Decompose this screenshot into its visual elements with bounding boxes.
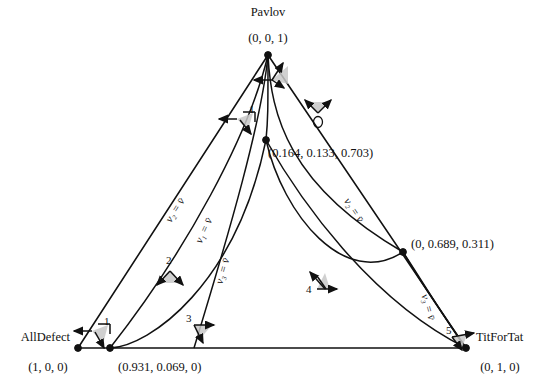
point-label-interior: (0.164, 0.133, 0.703) xyxy=(268,146,373,160)
curve-label-v3-left: v₃ = v̄ xyxy=(213,256,232,285)
node-dots xyxy=(75,52,470,352)
curve-label-v2-left: v₂ = v̄ xyxy=(162,195,186,224)
simplex-figure: 1 2 3 xyxy=(0,0,536,386)
marker-1-lower: 1 xyxy=(74,315,110,348)
curve-label-v1-left: v₁ = v̄ xyxy=(192,216,214,245)
marker-label: 3 xyxy=(186,312,192,324)
isocline-curves xyxy=(110,55,466,348)
marker-label: 1 xyxy=(104,315,110,327)
point-dot-right-edge xyxy=(400,249,407,256)
vertex-label-titfortat: TitForTat xyxy=(476,330,524,344)
point-label-right-edge: (0, 0.689, 0.311) xyxy=(411,237,494,251)
vertex-coord-pavlov: (0, 0, 1) xyxy=(248,31,288,45)
vertex-label-pavlov: Pavlov xyxy=(251,5,286,19)
vertex-dot-alldefect xyxy=(75,345,82,352)
marker-3: 3 xyxy=(186,312,214,343)
point-labels: (0.164, 0.133, 0.703) (0, 0.689, 0.311) … xyxy=(118,146,494,374)
vector-field-markers: 1 2 3 xyxy=(74,63,474,350)
marker-2: 2 xyxy=(157,254,183,285)
vertex-coord-titfortat: (0, 1, 0) xyxy=(480,360,520,374)
point-dot-interior xyxy=(263,137,270,144)
marker-4: 4 xyxy=(306,272,337,295)
marker-label: 1 xyxy=(249,103,255,115)
marker-5: 5 xyxy=(446,324,474,350)
triangle-outline xyxy=(78,55,466,348)
marker-label: 5 xyxy=(446,324,452,336)
curve-label-v3-right: v₃ = v̄ xyxy=(419,292,438,321)
curve-label-v2-right: v₂ = v̄ xyxy=(342,195,367,224)
marker-label: 2 xyxy=(166,254,172,266)
vertex-coord-alldefect: (1, 0, 0) xyxy=(28,360,68,374)
point-label-bottom-edge: (0.931, 0.069, 0) xyxy=(118,360,201,374)
simplex-plot: 1 2 3 xyxy=(0,0,536,386)
marker-label: 4 xyxy=(306,283,312,295)
vertex-dot-titfortat xyxy=(463,345,470,352)
point-dot-bottom-edge xyxy=(107,345,114,352)
vertex-label-alldefect: AllDefect xyxy=(21,330,71,344)
vertex-dot-pavlov xyxy=(265,52,272,59)
marker-0-upper xyxy=(305,100,331,128)
marker-1-upper: 1 xyxy=(219,103,255,134)
